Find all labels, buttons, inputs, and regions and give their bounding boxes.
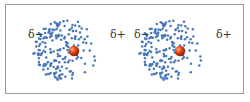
electron-dot — [196, 42, 199, 45]
electron-dot — [85, 42, 88, 45]
electron-dot — [181, 57, 184, 60]
nucleus — [175, 46, 185, 56]
electron-dot — [172, 42, 175, 45]
electron-dot — [55, 60, 58, 63]
electron-dot — [162, 77, 165, 80]
electron-dot — [199, 55, 202, 58]
electron-dot — [186, 57, 189, 60]
electron-dot — [71, 77, 74, 80]
electron-dot — [175, 28, 178, 31]
electron-dot — [90, 42, 93, 45]
electron-dot — [94, 59, 97, 62]
electron-dot — [184, 38, 187, 41]
electron-dot — [49, 48, 52, 51]
electron-dot — [38, 61, 41, 64]
electron-dot — [38, 64, 41, 67]
electron-dot — [168, 20, 171, 23]
electron-dot — [150, 46, 153, 49]
electron-dot — [80, 57, 83, 60]
electron-dot — [172, 20, 175, 23]
electron-dot — [173, 33, 176, 36]
electron-dot — [166, 38, 169, 41]
electron-dot — [82, 49, 85, 52]
electron-dot — [153, 68, 156, 71]
electron-dot — [186, 27, 189, 30]
electron-dot — [180, 24, 183, 27]
electron-dot — [47, 61, 50, 64]
electron-dot — [38, 57, 41, 60]
electron-dot — [62, 20, 65, 23]
electron-dot — [38, 45, 41, 48]
electron-dot — [44, 42, 47, 45]
electron-dot — [84, 62, 87, 64]
electron-dot — [198, 64, 201, 67]
electron-dot — [155, 64, 158, 67]
electron-dot — [61, 73, 64, 76]
electron-dot — [151, 56, 154, 59]
electron-dot — [61, 34, 64, 37]
electron-dot — [55, 28, 58, 31]
electron-dot — [144, 64, 147, 67]
electron-dot — [192, 35, 195, 38]
electron-dot — [71, 37, 74, 40]
electron-dot — [165, 29, 168, 32]
electron-dot — [170, 76, 173, 79]
electron-dot — [177, 37, 180, 40]
electron-dot — [86, 35, 89, 38]
electron-dot — [155, 72, 158, 75]
electron-dot — [52, 66, 55, 69]
electron-dot — [138, 52, 141, 55]
electron-dot — [53, 29, 56, 32]
nucleus — [69, 46, 79, 56]
electron-dot — [66, 42, 69, 45]
electron-dot — [32, 52, 35, 55]
electron-dot — [146, 54, 149, 57]
electron-dot — [37, 49, 40, 52]
electron-dot — [183, 21, 186, 24]
electron-dot — [55, 68, 58, 71]
delta-minus-label: δ− — [134, 28, 150, 41]
electron-dot — [59, 21, 62, 24]
electron-dot — [168, 47, 171, 50]
electron-dot — [59, 48, 62, 51]
electron-dot — [45, 56, 48, 59]
electron-dot — [150, 27, 153, 30]
electron-dot — [83, 38, 86, 41]
electron-dot — [57, 53, 60, 56]
electron-dot — [71, 24, 74, 27]
electron-dot — [44, 32, 47, 35]
electron-dot — [67, 61, 70, 64]
electron-dot — [173, 46, 176, 49]
atom-panel-left: δ− δ+ — [28, 20, 126, 82]
electron-dot — [163, 53, 166, 56]
electron-dot — [78, 38, 81, 41]
electron-dot — [49, 64, 52, 67]
electron-dot — [155, 51, 158, 54]
electron-dot — [170, 57, 173, 60]
electron-dot — [69, 28, 72, 31]
electron-dot — [150, 32, 153, 35]
electron-dot — [65, 67, 68, 70]
electron-dot — [42, 68, 45, 71]
electron-dot — [156, 33, 159, 36]
electron-dot — [165, 55, 168, 58]
electron-dot — [43, 63, 46, 66]
electron-dot — [62, 47, 65, 50]
electron-dot — [157, 39, 160, 42]
electron-dot — [155, 48, 158, 51]
electron-dot — [47, 68, 50, 71]
electron-dot — [44, 36, 47, 39]
electron-dot — [177, 60, 180, 63]
electron-dot — [150, 42, 153, 45]
electron-dot — [170, 36, 173, 39]
electron-dot — [144, 61, 147, 64]
electron-dot — [190, 71, 193, 74]
electron-dot — [75, 57, 78, 60]
electron-dot — [167, 65, 170, 68]
electron-dot — [78, 25, 81, 28]
electron-dot — [71, 60, 74, 63]
electron-dot — [37, 52, 40, 55]
electron-dot — [150, 51, 153, 54]
electron-dot — [161, 28, 164, 31]
electron-dot — [56, 77, 59, 80]
